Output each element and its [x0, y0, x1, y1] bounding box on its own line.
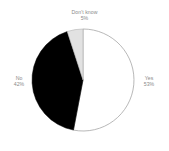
pie-label-dont-know-value: 5%: [0, 15, 169, 21]
pie-label-dont-know: Don't know 5%: [0, 9, 169, 22]
pie-label-no: No 42%: [2, 75, 36, 88]
pie-label-yes: Yes 53%: [132, 75, 166, 88]
pie-label-no-value: 42%: [2, 81, 36, 87]
pie-chart: Don't know 5% Yes 53% No 42%: [0, 0, 169, 151]
pie-slices: [32, 29, 134, 131]
pie-label-yes-value: 53%: [132, 81, 166, 87]
